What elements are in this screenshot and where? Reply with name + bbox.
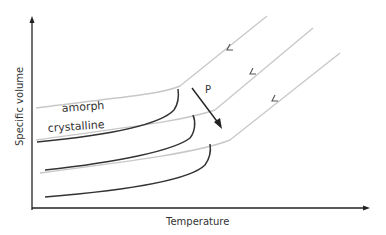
cooling-arrow-icons (227, 44, 278, 101)
pvt-diagram: amorph crystalline P Temperature Specifi… (0, 0, 386, 235)
pressure-label: P (205, 84, 211, 95)
y-axis-arrow-icon (30, 16, 35, 23)
amorph-label: amorph (61, 99, 104, 115)
y-axis-label: Specific volume (14, 67, 25, 146)
crystalline-label: crystalline (47, 118, 105, 135)
x-axis-arrow-icon (363, 206, 370, 211)
x-axis-label: Temperature (165, 216, 229, 227)
amorphous-curves (36, 16, 340, 173)
